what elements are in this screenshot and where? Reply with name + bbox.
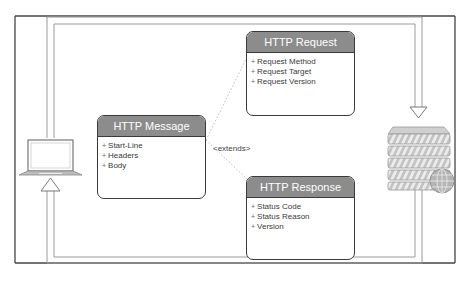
laptop-icon[interactable] (19, 140, 82, 175)
class-attributes: Request Method Request Target Request Ve… (247, 53, 354, 91)
http-response-class[interactable]: HTTP Response Status Code Status Reason … (246, 176, 355, 260)
class-title: HTTP Request (247, 32, 354, 53)
class-title: HTTP Response (247, 177, 354, 198)
response-pipe (47, 190, 422, 263)
class-attributes: Start-Line Headers Body (98, 137, 205, 175)
arrow-up-icon (41, 178, 60, 191)
class-attributes: Status Code Status Reason Version (247, 198, 354, 236)
attribute: Body (102, 161, 201, 171)
extends-connectors (206, 55, 250, 182)
attribute: Version (251, 222, 350, 232)
arrow-down-icon (410, 107, 427, 118)
attribute: Request Method (251, 57, 350, 67)
attribute: Status Code (251, 202, 350, 212)
attribute: Status Reason (251, 212, 350, 222)
extends-label: <extends> (213, 144, 250, 153)
attribute: Request Version (251, 77, 350, 87)
attribute: Start-Line (102, 141, 201, 151)
diagram-canvas (0, 0, 468, 283)
class-title: HTTP Message (98, 116, 205, 137)
globe-icon (430, 169, 454, 193)
attribute: Headers (102, 151, 201, 161)
http-request-class[interactable]: HTTP Request Request Method Request Targ… (246, 31, 355, 116)
attribute: Request Target (251, 67, 350, 77)
http-message-class[interactable]: HTTP Message Start-Line Headers Body (97, 115, 206, 199)
